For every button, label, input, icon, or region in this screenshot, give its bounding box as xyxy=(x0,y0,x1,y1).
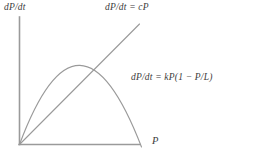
exponential-equation-label: dP/dt = cP xyxy=(105,3,149,13)
figure-canvas: dP/dt P dP/dt = cP dP/dt = kP(1 − P/L) xyxy=(0,0,259,160)
exponential-line-curve xyxy=(20,24,140,145)
logistic-equation-label: dP/dt = kP(1 − P/L) xyxy=(131,73,213,83)
logistic-parabola-curve xyxy=(20,65,142,147)
axes-group xyxy=(19,17,140,145)
x-axis-label: P xyxy=(152,136,159,147)
growth-rate-plot xyxy=(0,0,259,160)
y-axis-label: dP/dt xyxy=(4,3,26,13)
